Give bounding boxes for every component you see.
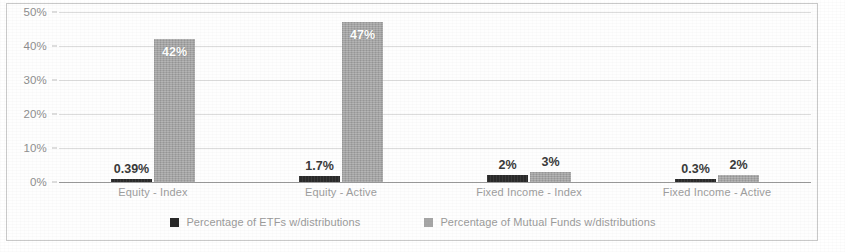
category-label: Equity - Index: [118, 186, 187, 198]
category-label: Fixed Income - Active: [663, 186, 771, 198]
bar-mutual-fund[interactable]: [530, 172, 571, 182]
legend-label-etf: Percentage of ETFs w/distributions: [186, 216, 360, 228]
legend-item-etf[interactable]: Percentage of ETFs w/distributions: [170, 216, 360, 228]
y-axis-label: 10%: [3, 142, 47, 154]
gridline-50%: [59, 12, 811, 13]
bar-mutual-fund[interactable]: [154, 39, 195, 182]
legend-swatch-etf-icon: [170, 218, 179, 227]
bar-etf[interactable]: [487, 175, 528, 182]
y-axis-label: 40%: [3, 40, 47, 52]
bar-etf[interactable]: [675, 179, 716, 182]
y-axis-label: 0%: [3, 176, 47, 188]
y-axis-tick-mark: [52, 12, 57, 13]
y-axis-tick-mark: [52, 46, 57, 47]
chart-legend: Percentage of ETFs w/distributions Perce…: [7, 216, 819, 228]
legend-swatch-mutual-funds-icon: [424, 218, 433, 227]
plot-area: 0%10%20%30%40%50%0.39%42%1.7%47%2%3%0.3%…: [59, 12, 811, 182]
bar-value-label: 42%: [135, 45, 215, 59]
y-axis-tick-mark: [52, 182, 57, 183]
bar-value-label: 2%: [699, 158, 779, 172]
bar-mutual-fund[interactable]: [718, 175, 759, 182]
y-axis-label: 50%: [3, 6, 47, 18]
legend-item-mutual-funds[interactable]: Percentage of Mutual Funds w/distributio…: [424, 216, 655, 228]
y-axis-label: 30%: [3, 74, 47, 86]
y-axis-label: 20%: [3, 108, 47, 120]
category-axis: Equity - IndexEquity - ActiveFixed Incom…: [59, 186, 811, 202]
bar-etf[interactable]: [299, 176, 340, 182]
gridline-0%: [59, 182, 811, 183]
bar-mutual-fund[interactable]: [342, 22, 383, 182]
legend-label-mutual-funds: Percentage of Mutual Funds w/distributio…: [440, 216, 655, 228]
bar-value-label: 47%: [323, 28, 403, 42]
chart-frame: 0%10%20%30%40%50%0.39%42%1.7%47%2%3%0.3%…: [6, 3, 818, 241]
bar-value-label: 3%: [511, 155, 591, 169]
category-label: Fixed Income - Index: [476, 186, 582, 198]
y-axis-tick-mark: [52, 114, 57, 115]
category-label: Equity - Active: [305, 186, 377, 198]
y-axis-tick-mark: [52, 80, 57, 81]
bar-etf[interactable]: [111, 179, 152, 182]
y-axis-tick-mark: [52, 148, 57, 149]
